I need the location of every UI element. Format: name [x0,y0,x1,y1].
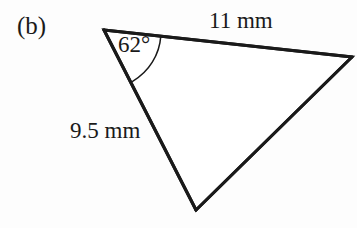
side-length-label-left: 9.5 mm [70,119,140,142]
triangle-drawing [0,0,357,228]
triangle-outline [104,30,352,210]
side-length-label-top: 11 mm [209,9,273,32]
geometry-figure: (b) 11 mm 9.5 mm 62° [0,0,357,228]
part-label: (b) [17,13,46,38]
angle-measure-label: 62° [118,33,150,56]
